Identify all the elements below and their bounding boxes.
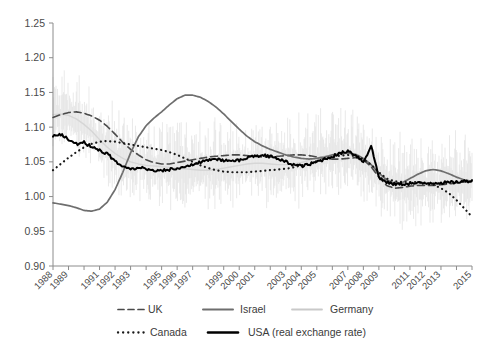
y-tick-label: 0.90 — [25, 260, 46, 272]
y-tick-label: 1.05 — [25, 155, 46, 167]
y-tick-label: 1.20 — [25, 51, 46, 63]
legend-label: Israel — [240, 303, 266, 315]
legend-label: Canada — [150, 326, 187, 338]
y-tick-label: 1.25 — [25, 17, 46, 29]
y-tick-label: 1.15 — [25, 86, 46, 98]
y-tick-label: 0.95 — [25, 225, 46, 237]
y-tick-label: 1.10 — [25, 121, 46, 133]
chart-canvas: 1.251.201.151.101.051.000.950.90 1988198… — [0, 0, 483, 358]
y-tick-label: 1.00 — [25, 190, 46, 202]
legend-label: UK — [148, 303, 163, 315]
legend-label: Germany — [330, 303, 374, 315]
exchange-rate-chart: 1.251.201.151.101.051.000.950.90 1988198… — [0, 0, 483, 358]
legend-label: USA (real exchange rate) — [248, 326, 366, 338]
